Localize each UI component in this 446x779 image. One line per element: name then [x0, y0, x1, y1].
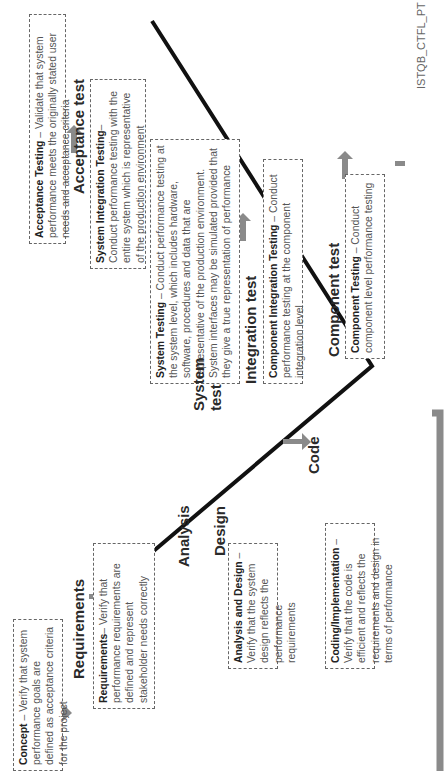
system-integration-testing-box: System Integration Testing– Conduct perf… [90, 79, 146, 269]
separator: – [155, 290, 166, 302]
phase-label-design: Design [211, 506, 228, 556]
phase-label-integration-test: Integration test [242, 276, 259, 384]
box-text: Conduct performance testing with the ent… [108, 91, 145, 263]
phase-label-analysis: Analysis [175, 505, 192, 567]
separator: – [350, 245, 361, 257]
v-model-diagram: Concept – Verify that system performance… [0, 0, 446, 779]
requirements-box: Requirements– Verify that performance re… [93, 543, 155, 709]
separator: – [98, 625, 109, 634]
component-testing-box: Component Testing – Conduct component le… [345, 174, 385, 359]
watermark: ISTQB_CTFL_PT [415, 2, 427, 89]
box-title: Coding/Implementation [330, 548, 341, 663]
component-integration-testing-box: Component Integration Testing – Conduct … [263, 159, 303, 384]
box-title: System Integration Testing [95, 130, 106, 263]
separator: – [95, 125, 106, 131]
box-title: Concept [18, 723, 29, 765]
box-title: Requirements [98, 634, 109, 703]
separator: – [34, 129, 45, 141]
box-title: Component Integration Testing [268, 225, 279, 378]
box-text: Conduct performance testing at the syste… [155, 145, 232, 378]
box-title: System Testing [155, 302, 166, 378]
concept-box: Concept – Verify that system performance… [13, 619, 63, 771]
box-title: Component Testing [350, 256, 361, 353]
phase-label-component-test: Component test [325, 243, 342, 357]
phase-label-code: Code [305, 437, 322, 475]
phase-label-system-test: System test [190, 351, 224, 411]
box-title: Acceptance Testing [34, 141, 45, 238]
system-testing-box: System Testing – Conduct performance tes… [150, 139, 240, 384]
separator: – [18, 712, 29, 724]
phase-label-requirements: Requirements [70, 579, 87, 679]
phase-label-acceptance-test: Acceptance test [70, 79, 87, 194]
separator: – [233, 553, 244, 562]
separator: – [330, 539, 341, 548]
analysis-design-box: Analysis and Design – Verify that the sy… [228, 543, 278, 669]
acceptance-testing-box: Acceptance Testing – Validate that syste… [29, 14, 66, 244]
box-title: Analysis and Design [233, 561, 244, 663]
coding-implementation-box: Coding/Implementation – Verify that the … [325, 523, 375, 669]
separator: – [268, 213, 279, 225]
